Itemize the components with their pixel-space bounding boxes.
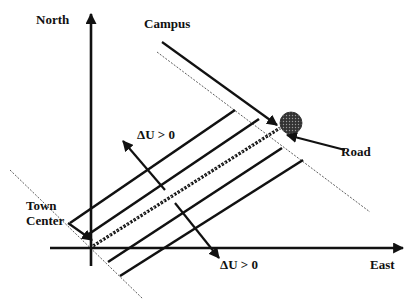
boundary-line-campus [157,52,370,212]
town-center-pointer-arrow [68,223,92,240]
road-pointer-arrow [287,135,345,150]
campus-marker [280,112,302,134]
town-center-label-line1: Town [26,199,57,213]
east-axis-label: East [370,258,395,272]
town-center-label-line2: Center [26,214,64,228]
delta-u-upper-label: ΔU > 0 [137,128,175,142]
delta-u-lower-label: ΔU > 0 [220,258,258,272]
campus-pointer-arrow [162,42,277,125]
road-label: Road [341,145,371,159]
north-axis-label: North [36,13,69,27]
iso-line-4 [120,160,303,276]
campus-label: Campus [144,17,190,31]
boundary-line-town [10,170,143,299]
delta-u-lower-arrow [175,203,219,258]
